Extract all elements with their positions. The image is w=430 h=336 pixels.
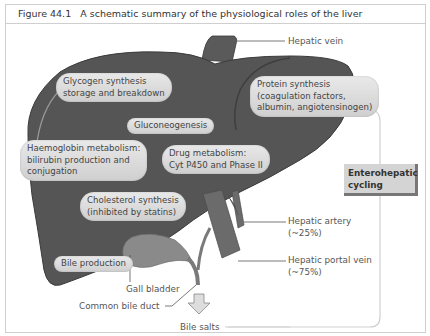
- label-bile-salts: Bile salts: [180, 321, 220, 333]
- role-drug-line2: Cyt P450 and Phase II: [169, 160, 263, 172]
- role-protein-line2: (coagulation factors,: [257, 91, 372, 103]
- gall-bladder-shape: [123, 234, 192, 267]
- label-portal-vein-name: Hepatic portal vein: [288, 254, 372, 266]
- label-hepatic-artery: Hepatic artery (~25%): [288, 215, 351, 239]
- hepatic-vein-shape: [202, 36, 237, 62]
- role-protein-line3: albumin, angiotensinogen): [257, 102, 372, 114]
- role-haemoglobin: Haemoglobin metabolism: bilirubin produc…: [20, 140, 147, 181]
- label-portal-vein-pct: (~75%): [288, 266, 372, 278]
- label-hepatic-artery-name: Hepatic artery: [288, 215, 351, 227]
- enterohepatic-line1: Enterohepatic: [348, 167, 411, 179]
- bile-salts-arrow-icon: [188, 294, 210, 314]
- role-glycogen-line1: Glycogen synthesis: [63, 76, 165, 88]
- label-hepatic-vein: Hepatic vein: [288, 35, 343, 47]
- role-glycogen-line2: storage and breakdown: [63, 88, 165, 100]
- role-haemoglobin-line1: Haemoglobin metabolism:: [27, 143, 140, 155]
- role-haemoglobin-line2: bilirubin production and: [27, 155, 140, 167]
- role-drug-line1: Drug metabolism:: [169, 148, 263, 160]
- role-haemoglobin-line3: conjugation: [27, 166, 140, 178]
- role-gluconeogenesis: Gluconeogenesis: [127, 118, 214, 134]
- role-drug: Drug metabolism: Cyt P450 and Phase II: [162, 145, 270, 174]
- role-protein: Protein synthesis (coagulation factors, …: [250, 76, 379, 117]
- enterohepatic-line2: cycling: [348, 179, 411, 191]
- common-bile-duct-shape: [188, 258, 198, 285]
- label-hepatic-artery-pct: (~25%): [288, 227, 351, 239]
- role-glycogen: Glycogen synthesis storage and breakdown: [56, 73, 172, 102]
- role-cholesterol-line2: (inhibited by statins): [87, 207, 179, 219]
- enterohepatic-cycling-box: Enterohepatic cycling: [344, 164, 418, 196]
- role-bile-production: Bile production: [54, 256, 133, 272]
- label-gall-bladder: Gall bladder: [126, 283, 180, 295]
- role-cholesterol-line1: Cholesterol synthesis: [87, 195, 179, 207]
- role-protein-line1: Protein synthesis: [257, 79, 372, 91]
- label-common-bile-duct: Common bile duct: [79, 300, 160, 312]
- role-cholesterol: Cholesterol synthesis (inhibited by stat…: [80, 192, 186, 221]
- hepatic-duct-shape: [198, 228, 210, 270]
- label-hepatic-portal-vein: Hepatic portal vein (~75%): [288, 254, 372, 278]
